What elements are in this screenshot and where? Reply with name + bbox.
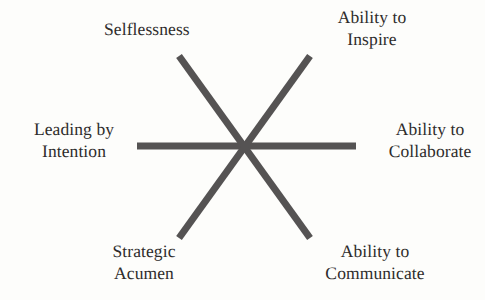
node-label-selflessness: Selflessness	[104, 18, 190, 40]
node-label-ability-to-communicate: Ability to Communicate	[300, 240, 450, 285]
node-label-strategic-acumen: Strategic Acumen	[88, 240, 200, 285]
node-label-ability-to-collaborate: Ability to Collaborate	[374, 118, 485, 163]
node-label-ability-to-inspire: Ability to Inspire	[312, 6, 432, 51]
star-diagram-figure: Selflessness Ability to Inspire Leading …	[0, 0, 485, 300]
node-label-leading-by-intention: Leading by Intention	[18, 118, 130, 163]
